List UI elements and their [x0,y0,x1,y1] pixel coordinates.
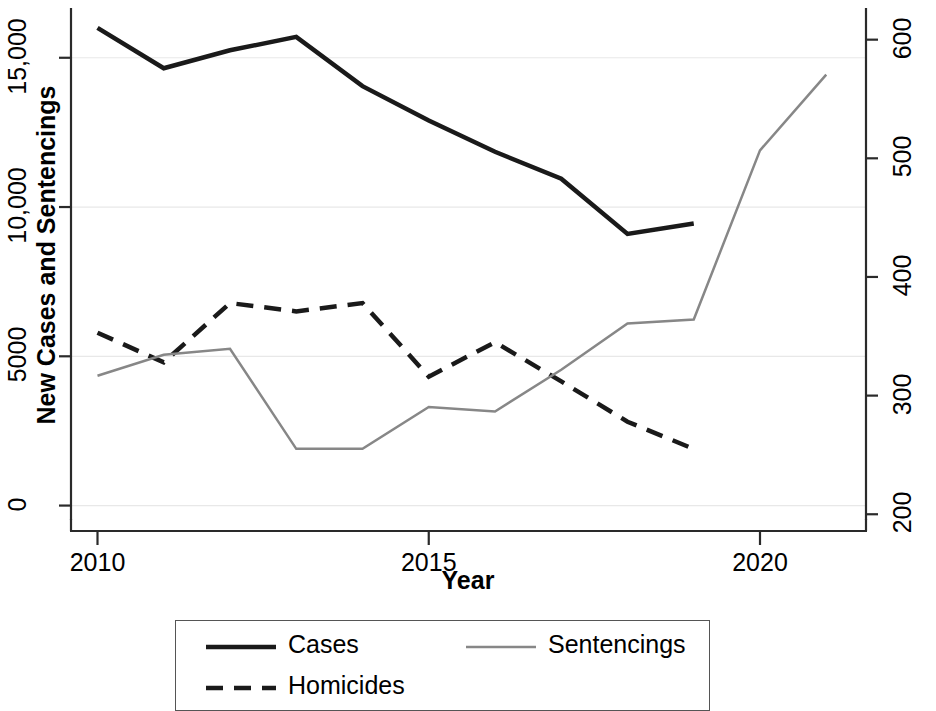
series-line-sentencings [98,75,827,449]
gridlines [71,58,866,506]
legend-label-cases: Cases [288,630,359,659]
data-series-layer [98,28,827,449]
legend-label-sentencings: Sentencings [548,630,686,659]
plot-area [0,0,936,711]
legend-label-homicides: Homicides [288,671,405,700]
series-line-cases [98,28,694,234]
chart-figure: New Cases and Sentencings Homicides Year… [0,0,936,711]
axis-lines [59,8,878,545]
chart-legend: CasesSentencingsHomicides [175,620,710,711]
